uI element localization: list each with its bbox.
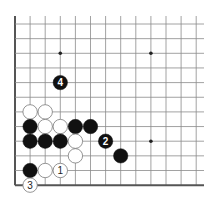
stone-circle [68,149,82,163]
grid-lines [15,16,204,185]
white-stone [68,149,82,163]
stone-circle [38,134,52,148]
white-stone-3: 3 [23,178,37,192]
stone-circle [68,134,82,148]
move-number-label: 2 [103,136,109,147]
move-number-label: 4 [58,77,64,88]
stone-circle [53,119,67,133]
black-stone-2: 2 [98,134,112,148]
stone-circle [114,149,128,163]
stone-circle [38,163,52,177]
go-board: 2134 [0,0,217,201]
stone-circle [23,119,37,133]
stone-circle [83,119,97,133]
white-stone-1: 1 [53,163,67,177]
white-stone [38,119,52,133]
star-point [149,52,153,56]
black-stone [53,134,67,148]
stone-circle [53,134,67,148]
black-stone [23,134,37,148]
white-stone [38,105,52,119]
stone-circle [38,105,52,119]
stone-circle [23,105,37,119]
black-stone-4: 4 [53,75,67,89]
black-stone [68,119,82,133]
white-stone [53,119,67,133]
white-stone [38,163,52,177]
stone-circle [68,119,82,133]
move-number-label: 1 [58,165,64,176]
stone-circle [38,119,52,133]
black-stone [114,149,128,163]
black-stone [23,119,37,133]
star-point [59,52,63,56]
stone-circle [23,163,37,177]
star-point [149,139,153,143]
white-stone [68,134,82,148]
stone-circle [23,134,37,148]
move-number-label: 3 [27,180,33,191]
black-stone [38,134,52,148]
black-stone [83,119,97,133]
white-stone [23,105,37,119]
black-stone [23,163,37,177]
